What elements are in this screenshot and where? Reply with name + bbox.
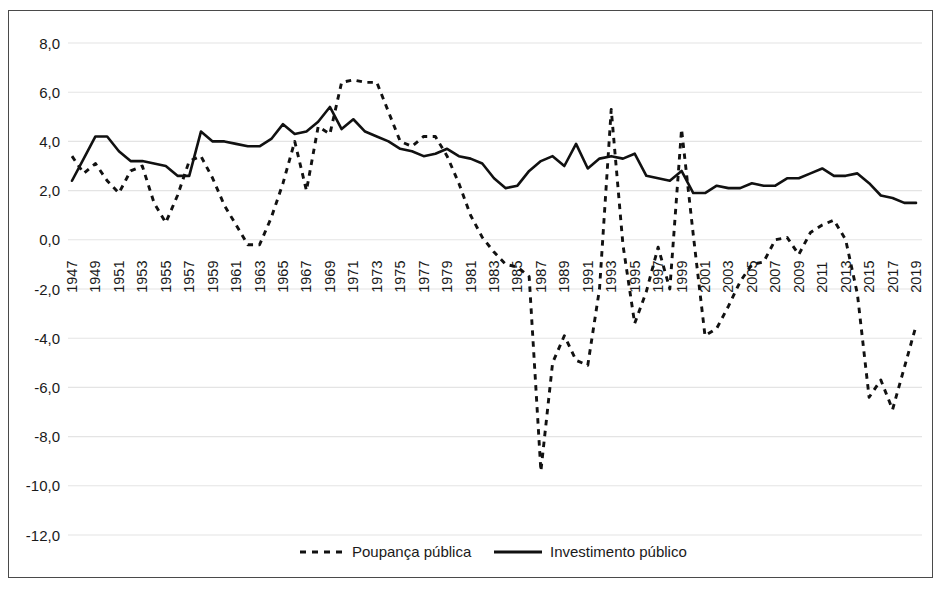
y-axis-tick-labels: 8,06,04,02,00,0-2,0-4,0-6,0-8,0-10,0-12,… [26, 35, 60, 544]
x-tick-label: 1957 [181, 261, 197, 293]
x-tick-label: 1969 [322, 261, 338, 293]
x-tick-label: 1971 [345, 261, 361, 293]
chart-figure: 8,06,04,02,00,0-2,0-4,0-6,0-8,0-10,0-12,… [0, 0, 941, 591]
x-tick-label: 1975 [392, 261, 408, 293]
x-tick-label: 1999 [674, 261, 690, 293]
x-tick-label: 1947 [64, 261, 80, 293]
x-tick-label: 1997 [650, 261, 666, 293]
x-tick-label: 2009 [791, 261, 807, 293]
x-tick-label: 1955 [158, 261, 174, 293]
y-tick-label: 8,0 [39, 35, 60, 52]
y-tick-label: 6,0 [39, 84, 60, 101]
legend-label: Investimento público [550, 543, 687, 560]
y-tick-label: -4,0 [34, 330, 60, 347]
x-tick-label: 2015 [861, 261, 877, 293]
x-tick-label: 1949 [87, 261, 103, 293]
x-tick-label: 2017 [885, 261, 901, 293]
x-tick-label: 1961 [228, 261, 244, 293]
x-tick-label: 1959 [205, 261, 221, 293]
x-tick-label: 1965 [275, 261, 291, 293]
x-tick-label: 2007 [767, 261, 783, 293]
x-tick-label: 1979 [439, 261, 455, 293]
x-tick-label: 1993 [603, 261, 619, 293]
y-tick-label: -6,0 [34, 379, 60, 396]
x-tick-label: 1977 [416, 261, 432, 293]
x-tick-label: 2003 [720, 261, 736, 293]
x-tick-label: 1951 [111, 261, 127, 293]
x-tick-label: 1967 [298, 261, 314, 293]
x-tick-label: 2019 [908, 261, 924, 293]
y-tick-label: -2,0 [34, 281, 60, 298]
x-tick-label: 1973 [369, 261, 385, 293]
chart-legend: Poupança públicaInvestimento público [300, 543, 687, 560]
x-tick-label: 1963 [252, 261, 268, 293]
legend-label: Poupança pública [352, 543, 472, 560]
x-tick-label: 1981 [463, 261, 479, 293]
x-tick-label: 1983 [486, 261, 502, 293]
series-line-solid [72, 107, 916, 203]
y-tick-label: -10,0 [26, 477, 60, 494]
line-chart: 8,06,04,02,00,0-2,0-4,0-6,0-8,0-10,0-12,… [0, 0, 941, 591]
x-tick-label: 1991 [580, 261, 596, 293]
x-axis-tick-labels: 1947194919511953195519571959196119631965… [64, 261, 924, 293]
y-tick-label: 0,0 [39, 231, 60, 248]
x-tick-label: 2005 [744, 261, 760, 293]
y-tick-label: -12,0 [26, 527, 60, 544]
y-tick-label: 2,0 [39, 182, 60, 199]
x-tick-label: 1987 [533, 261, 549, 293]
y-tick-label: 4,0 [39, 133, 60, 150]
x-tick-label: 1953 [134, 261, 150, 293]
y-tick-label: -8,0 [34, 428, 60, 445]
x-tick-label: 2011 [814, 262, 830, 293]
x-tick-label: 1989 [556, 261, 572, 293]
x-tick-label: 1995 [627, 261, 643, 293]
